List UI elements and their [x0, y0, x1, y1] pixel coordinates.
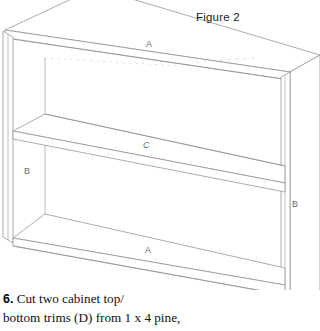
figure-caption: 6. Cut two cabinet top/ bottom trims (D)…: [3, 290, 233, 327]
bottom-panel-A: [13, 214, 292, 290]
middle-shelf-C: [13, 114, 285, 192]
part-label-a-top: A: [146, 39, 152, 49]
part-label-c: C: [143, 140, 150, 150]
cabinet-isometric-drawing: [0, 0, 320, 290]
figure-title: Figure 2: [196, 11, 240, 23]
caption-text-line-1: Cut two cabinet top/: [17, 291, 124, 306]
caption-step-number: 6.: [3, 292, 13, 306]
figure-illustration: Figure 2 A C B B A: [0, 0, 320, 290]
right-side-panel-B: [281, 55, 320, 290]
part-label-b-right: B: [292, 199, 298, 209]
left-side-panel-B: [3, 31, 13, 243]
part-label-b-left: B: [24, 166, 30, 176]
part-label-a-bottom: A: [145, 245, 151, 255]
caption-line-1: 6. Cut two cabinet top/: [3, 290, 233, 309]
page: Figure 2 A C B B A 6. Cut two cabinet to…: [0, 0, 320, 331]
top-panel-A: [5, 0, 320, 80]
caption-text-line-2: bottom trims (D) from 1 x 4 pine,: [3, 309, 233, 328]
